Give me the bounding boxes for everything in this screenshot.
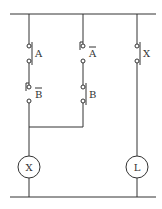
rung-3: X L — [126, 14, 151, 197]
contact-a-bar: A — [80, 42, 97, 63]
coil-x: X — [18, 156, 40, 197]
coil-l: L — [126, 156, 148, 197]
coil-x-label: X — [25, 162, 33, 173]
contact-b: B — [81, 83, 96, 105]
contact-a: A — [27, 42, 43, 65]
contact-x-label: X — [143, 48, 151, 59]
contact-x: X — [135, 42, 151, 65]
contact-a-label: A — [34, 48, 43, 59]
coil-l-label: L — [134, 162, 141, 173]
contact-b-label: B — [89, 89, 96, 100]
contact-b-bar-label: B — [35, 89, 42, 100]
contact-b-bar: B — [26, 83, 42, 103]
rung-1: A B — [26, 14, 43, 156]
ladder-diagram: A B A B — [0, 0, 162, 209]
contact-a-bar-label: A — [88, 48, 97, 59]
rung-2: A B — [29, 14, 97, 127]
